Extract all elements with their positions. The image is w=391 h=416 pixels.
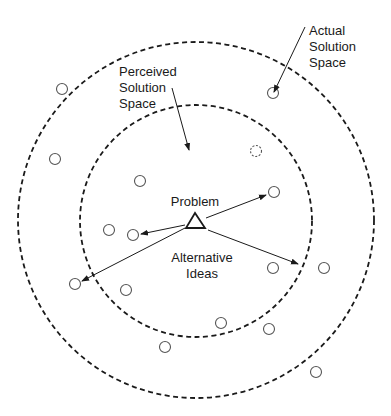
idea-circle-icon (264, 324, 275, 335)
alternative-label-line-2: Ideas (171, 266, 232, 282)
alternative-label-line-1: Alternative (171, 250, 232, 266)
actual-solution-space-label: Actual Solution Space (309, 23, 356, 71)
perceived-label-line-3: Space (119, 96, 177, 112)
label-pointer-actual-arrow-icon (274, 27, 305, 92)
idea-circle-icon (216, 318, 227, 329)
arrows (82, 27, 305, 281)
alternative-ideas (50, 84, 330, 378)
idea-circle-icon (268, 88, 279, 99)
solution-space-diagram: Actual Solution Space Perceived Solution… (0, 0, 391, 416)
problem-triangle (186, 213, 205, 228)
actual-label-line-2: Solution (309, 39, 356, 55)
idea-circle-icon (269, 187, 280, 198)
idea-circle-icon (160, 342, 171, 353)
idea-circle-icon (57, 84, 68, 95)
idea-circle-icon (311, 367, 322, 378)
alternative-ideas-label: Alternative Ideas (171, 250, 232, 282)
problem-triangle-icon (186, 213, 205, 228)
idea-circle-icon (50, 154, 61, 165)
actual-label-line-1: Actual (309, 23, 356, 39)
perceived-label-line-2: Solution (119, 80, 177, 96)
idea-circle-icon (319, 263, 330, 274)
perceived-solution-space-label: Perceived Solution Space (119, 64, 177, 112)
idea-circle-icon (268, 263, 279, 274)
hidden-idea-circle-icon (251, 146, 262, 157)
problem-to-idea-arrow-icon (141, 225, 185, 234)
idea-circle-icon (70, 279, 81, 290)
actual-label-line-3: Space (309, 55, 356, 71)
idea-circle-icon (135, 176, 146, 187)
idea-circle-icon (121, 285, 132, 296)
idea-circle-icon (128, 230, 139, 241)
idea-circle-icon (104, 225, 115, 236)
perceived-label-line-1: Perceived (119, 64, 177, 80)
problem-label: Problem (171, 194, 219, 210)
